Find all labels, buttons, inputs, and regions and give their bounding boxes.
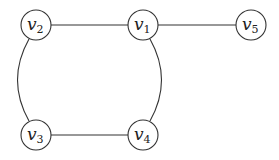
edge-v2-v3 [18, 39, 30, 121]
node-v1: v1 [128, 10, 158, 40]
graph-diagram: v1 v2 v3 v4 v5 [0, 0, 279, 160]
edge-v1-v4 [150, 39, 162, 121]
node-v2: v2 [21, 10, 51, 40]
node-v4: v4 [128, 120, 158, 150]
node-v5: v5 [236, 10, 266, 40]
node-v3: v3 [21, 120, 51, 150]
